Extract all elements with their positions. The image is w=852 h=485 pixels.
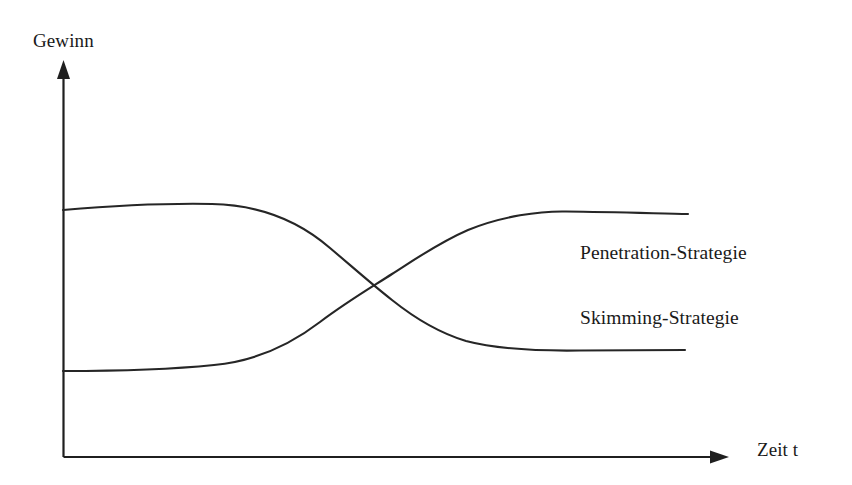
y-axis-label: Gewinn <box>33 31 94 50</box>
x-axis-label: Zeit t <box>757 440 798 459</box>
legend-label-penetration-strategie: Penetration-Strategie <box>580 243 747 263</box>
y-axis-arrowhead-icon <box>57 60 70 79</box>
legend-label-skimming-strategie: Skimming-Strategie <box>580 308 739 328</box>
x-axis-arrowhead-icon <box>710 451 729 464</box>
skimming-strategy-curve <box>63 204 685 351</box>
penetration-strategy-curve <box>63 211 688 371</box>
profit-strategy-chart: Gewinn Zeit t Penetration-Strategie Skim… <box>0 0 852 485</box>
